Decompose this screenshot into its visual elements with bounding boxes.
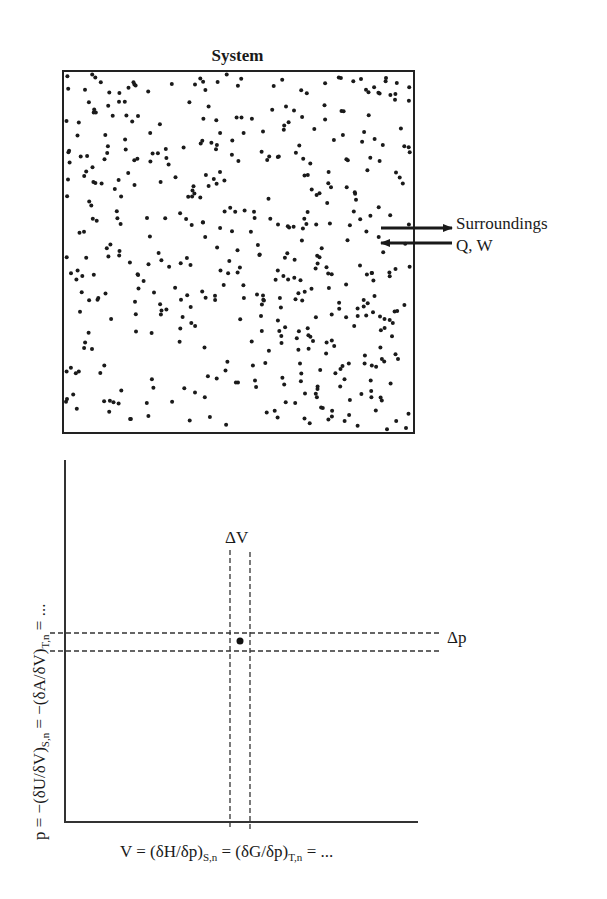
- surroundings-label: Surroundings: [456, 214, 548, 234]
- x-label-pre: V = (δH/δp): [120, 842, 203, 861]
- delta-p-label: Δp: [447, 628, 466, 648]
- x-label-sub2: T,n: [288, 851, 302, 863]
- y-label-sub2: T,n: [39, 634, 51, 648]
- y-axis-label: p = −(δU/δV)S,n = −(δA/δV)T,n = ...: [30, 604, 51, 840]
- heat-work-label: Q, W: [456, 236, 493, 256]
- state-point: [237, 638, 244, 645]
- y-label-mid: = −(δA/δV): [30, 649, 49, 733]
- x-label-mid: = (δG/δp): [217, 842, 288, 861]
- x-axis-label: V = (δH/δp)S,n = (δG/δp)T,n = ...: [120, 842, 333, 863]
- y-label-pre: p = −(δU/δV): [30, 747, 49, 840]
- y-label-post: = ...: [30, 604, 49, 635]
- x-label-sub1: S,n: [203, 851, 217, 863]
- y-label-sub1: S,n: [39, 733, 51, 747]
- delta-v-label: ΔV: [225, 528, 248, 548]
- diagram-lines: [0, 0, 607, 899]
- x-label-post: = ...: [302, 842, 333, 861]
